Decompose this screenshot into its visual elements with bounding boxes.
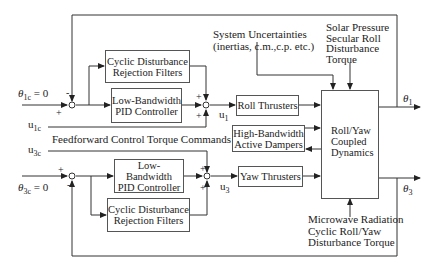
sign-minus: - xyxy=(67,180,70,190)
block-pid-yaw: Low-Bandwidth PID Controller xyxy=(114,159,184,193)
sign-plus: + xyxy=(58,165,64,175)
block-label: Roll Thrusters xyxy=(237,100,297,111)
block-label: PID Controller xyxy=(115,106,178,117)
signal-u1: u1 xyxy=(219,109,229,121)
feedforward-label: Feedforward Control Torque Commands xyxy=(52,134,231,145)
block-label: Low-Bandwidth xyxy=(112,95,181,106)
input-theta1c: θ1c = 0 xyxy=(18,88,48,100)
signal-theta1: θ1 xyxy=(403,93,412,105)
signal-theta3: θ3 xyxy=(403,183,412,195)
signal-u3: u3 xyxy=(220,181,230,193)
input-u1c: u1c xyxy=(28,119,41,131)
block-label: Roll/Yaw xyxy=(331,125,371,136)
sign-plus: + xyxy=(56,108,62,118)
block-coupled-dynamics: Roll/Yaw Coupled Dynamics xyxy=(321,90,379,199)
block-label: Cyclic Disturbance xyxy=(107,56,188,67)
input-u3c: u3c xyxy=(28,144,41,156)
block-label: Coupled xyxy=(331,136,367,147)
input-theta3c: θ3c = 0 xyxy=(18,182,48,194)
block-yaw-thrusters: Yaw Thrusters xyxy=(238,166,303,187)
block-label: Cyclic Disturbance xyxy=(108,204,189,215)
block-label: Active Dampers xyxy=(234,139,303,150)
block-label: Yaw Thrusters xyxy=(240,171,301,182)
sign-plus: + xyxy=(196,92,202,102)
solar-pressure-label: Solar Pressure Secular Roll Disturbance … xyxy=(326,22,389,64)
block-label: Rejection Filters xyxy=(113,67,183,78)
block-label: PID Controller xyxy=(118,182,181,193)
sign-minus: - xyxy=(66,88,69,98)
summer-top-error xyxy=(69,102,75,108)
block-label: High-Bandwidth xyxy=(233,128,304,139)
block-pid-roll: Low-Bandwidth PID Controller xyxy=(111,88,182,123)
microwave-label: Microwave Radiation Cyclic Roll/Yaw Dist… xyxy=(308,214,404,249)
sign-plus: + xyxy=(200,183,206,193)
sign-plus: + xyxy=(196,111,202,121)
block-label: Dynamics xyxy=(331,147,374,158)
block-roll-thrusters: Roll Thrusters xyxy=(236,95,299,116)
block-cyclic-filters-yaw: Cyclic Disturbance Rejection Filters xyxy=(107,198,190,232)
sign-plus: + xyxy=(200,164,206,174)
block-label: Rejection Filters xyxy=(114,215,184,226)
block-active-dampers: High-Bandwidth Active Dampers xyxy=(232,125,305,152)
block-label: Low-Bandwidth xyxy=(115,160,183,182)
block-cyclic-filters-roll: Cyclic Disturbance Rejection Filters xyxy=(105,50,190,83)
summer-top-control xyxy=(203,102,209,108)
uncertainties-label: System Uncertainties (inertias, c.m.,c.p… xyxy=(213,28,314,52)
